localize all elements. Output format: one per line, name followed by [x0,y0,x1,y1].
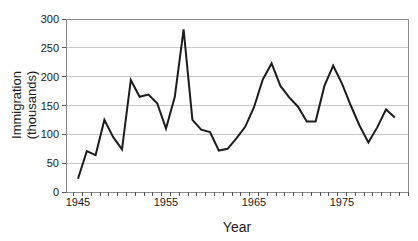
plot-area: 0501001502002503001945195519651975 [0,0,418,241]
x-tick-label: 1965 [242,196,266,208]
y-tick-label: 250 [41,42,59,54]
x-tick-label: 1975 [330,196,354,208]
x-tick-labels: 1945195519651975 [66,196,354,208]
y-axis-ticks: 050100150200250300 [41,13,66,198]
x-tick-label: 1955 [154,196,178,208]
gridlines [66,48,408,163]
y-tick-label: 200 [41,71,59,83]
data-line-immigration [78,29,395,178]
y-tick-label: 300 [41,13,59,25]
y-tick-label: 50 [47,157,59,169]
y-tick-label: 0 [53,186,59,198]
y-tick-label: 150 [41,100,59,112]
y-tick-label: 100 [41,128,59,140]
x-tick-label: 1945 [66,196,90,208]
x-axis-title: Year [66,219,408,235]
immigration-line-chart: Immigration (thousands) 0501001502002503… [0,0,418,241]
